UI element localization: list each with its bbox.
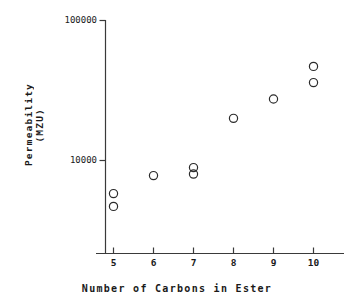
y-axis-title: Permeability (MZU): [14, 60, 54, 190]
data-point: [309, 79, 317, 87]
data-point: [229, 114, 237, 122]
x-tick-label-9: 9: [259, 257, 288, 268]
data-point: [309, 62, 317, 70]
data-point: [109, 190, 117, 198]
y-axis-title-line-2: (MZU): [34, 108, 45, 143]
x-tick-label-5: 5: [99, 257, 128, 268]
x-tick-label-6: 6: [139, 257, 168, 268]
x-axis-title: Number of Carbons in Ester: [0, 283, 354, 294]
x-tick-label-7: 7: [179, 257, 208, 268]
data-point: [149, 172, 157, 180]
y-tick-label-100000: 100000: [42, 15, 97, 25]
scatter-chart: 100000 10000 5 6 7 8 9 10 Permeability (…: [0, 0, 354, 306]
y-axis-title-line-1: Permeability: [23, 83, 34, 166]
data-point-group: [109, 62, 317, 210]
x-tick-label-8: 8: [219, 257, 248, 268]
data-point: [109, 202, 117, 210]
x-tick-label-10: 10: [299, 257, 328, 268]
data-point: [269, 95, 277, 103]
